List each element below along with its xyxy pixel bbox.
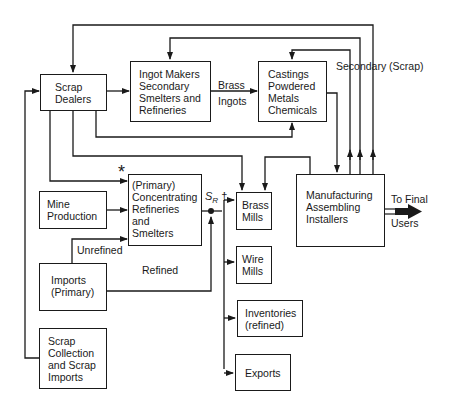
edge-scrapdealers-to-primary [50,110,127,181]
node-label: (Primary) Concentrating Refineries and S… [132,179,197,239]
node-primary: (Primary) Concentrating Refineries and S… [128,174,202,246]
edge-label-users: Users [391,217,418,229]
node-label: Manufacturing Assembling Installers [306,189,373,225]
edge-label-to-final: To Final [391,193,428,205]
node-exports: Exports [235,354,291,391]
node-label: Inventories (refined) [245,307,296,331]
asterisk-marker: * [118,163,125,181]
edge-castings-to-mfg [326,93,337,172]
edge-label-refined: Refined [142,264,178,276]
node-label: Scrap Collection and Scrap Imports [48,335,96,383]
junction-dot [208,208,214,214]
node-wire-mills: Wire Mills [236,246,272,284]
node-ingot-makers: Ingot Makers Secondary Smelters and Refi… [130,61,211,122]
node-label: Brass Mills [242,199,269,223]
node-label: Scrap Dealers [55,81,91,105]
node-label: Mine Production [47,198,97,222]
node-label: Castings Powdered Metals Chemicals [268,68,317,116]
edge-scrapcollection-to-scrapdealers [25,91,40,358]
sr-label: SR † [205,190,227,205]
edge-label-brass: Brass [218,79,245,91]
node-scrap-collection: Scrap Collection and Scrap Imports [39,328,107,389]
edge-label-ingots: Ingots [218,95,247,107]
node-scrap-dealers: Scrap Dealers [40,74,107,111]
node-label: Exports [245,367,281,379]
edge-label-unrefined: Unrefined [77,244,123,256]
node-label: Wire Mills [242,253,264,277]
sr-sub: R [212,196,218,205]
node-label: Imports (Primary) [51,274,94,298]
node-label: Ingot Makers Secondary Smelters and Refi… [139,68,201,116]
node-brass-mills: Brass Mills [236,192,272,230]
node-mine-production: Mine Production [39,191,107,229]
node-manufacturing: Manufacturing Assembling Installers [296,174,385,247]
node-castings: Castings Powdered Metals Chemicals [258,61,327,122]
edge-label-secondary-scrap: Secondary (Scrap) [336,60,424,72]
node-inventories: Inventories (refined) [237,300,303,337]
node-imports: Imports (Primary) [39,263,107,311]
dagger-marker: † [221,190,227,202]
